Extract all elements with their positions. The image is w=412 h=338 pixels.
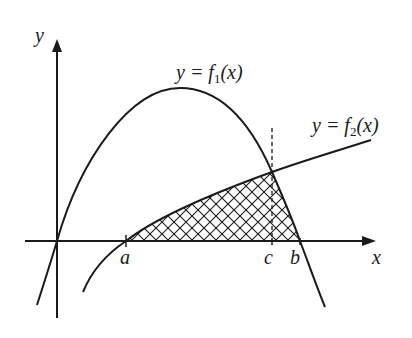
- curve-label-f1-suffix: (x): [220, 61, 243, 84]
- point-label-c: c: [264, 246, 273, 268]
- y-axis-arrow-icon: [52, 39, 62, 52]
- diagram-svg: y x a c b y = f1(x) y = f2(x): [0, 0, 412, 338]
- point-label-b: b: [290, 246, 300, 268]
- curve-label-f2: y = f2(x): [310, 114, 379, 139]
- x-axis-arrow-icon: [362, 236, 376, 246]
- x-axis-label: x: [371, 246, 381, 268]
- point-label-a: a: [120, 246, 130, 268]
- curve-label-f1-prefix: y = f: [174, 61, 216, 84]
- area-between-curves-diagram: y x a c b y = f1(x) y = f2(x): [0, 0, 412, 338]
- curve-label-f2-prefix: y = f: [310, 114, 352, 137]
- curve-label-f2-suffix: (x): [356, 114, 379, 137]
- curve-label-f1: y = f1(x): [174, 61, 243, 86]
- shaded-region: [120, 165, 305, 245]
- y-axis-label: y: [33, 24, 44, 47]
- y-axis: [52, 39, 62, 318]
